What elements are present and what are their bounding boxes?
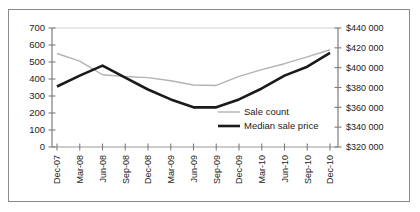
x-axis-tick-label: Sep-08 xyxy=(121,155,131,184)
x-axis-tick-label: Dec-08 xyxy=(143,155,153,184)
x-axis-tick-label: Mar-09 xyxy=(166,155,176,184)
left-axis-tick-label: 400 xyxy=(29,73,45,84)
left-axis-tick-labels: 0100200300400500600700 xyxy=(29,22,45,152)
right-axis-tick-label: $420 000 xyxy=(346,43,384,53)
left-axis-tick-label: 100 xyxy=(29,124,45,135)
right-axis-tick-label: $320 000 xyxy=(346,142,384,152)
right-axis-tick-label: $380 000 xyxy=(346,83,384,93)
series-line-median-sale-price xyxy=(57,53,330,108)
x-axis-tick-label: Mar-10 xyxy=(257,155,267,184)
x-axis-tick-label: Dec-10 xyxy=(325,155,335,184)
legend-label-sale-count: Sale count xyxy=(244,106,289,117)
right-axis-tick-label: $360 000 xyxy=(346,103,384,113)
right-axis-tick-label: $400 000 xyxy=(346,63,384,73)
left-axis-tick-label: 700 xyxy=(29,22,45,33)
x-axis-tick-label: Jun-08 xyxy=(98,155,108,183)
axis-lines xyxy=(49,28,342,151)
x-axis-tick-label: Dec-07 xyxy=(52,155,62,184)
x-axis-tick-label: Dec-09 xyxy=(234,155,244,184)
x-axis-tick-label: Mar-08 xyxy=(75,155,85,184)
left-axis-tick-label: 0 xyxy=(40,141,45,152)
x-axis-tick-labels: Dec-07Mar-08Jun-08Sep-08Dec-08Mar-09Jun-… xyxy=(52,155,335,184)
right-axis-tick-labels: $320 000$340 000$360 000$380 000$400 000… xyxy=(346,23,384,152)
right-axis-tick-label: $340 000 xyxy=(346,122,384,132)
x-axis-tick-label: Jun-09 xyxy=(189,155,199,183)
x-axis-tick-label: Sep-10 xyxy=(303,155,313,184)
x-axis-tick-label: Sep-09 xyxy=(212,155,222,184)
left-axis-tick-label: 300 xyxy=(29,90,45,101)
x-axis-tick-label: Jun-10 xyxy=(280,155,290,183)
left-axis-tick-label: 500 xyxy=(29,56,45,67)
right-axis-tick-label: $440 000 xyxy=(346,23,384,33)
left-axis-tick-label: 200 xyxy=(29,107,45,118)
legend-label-median-sale-price: Median sale price xyxy=(244,120,318,131)
left-axis-tick-label: 600 xyxy=(29,39,45,50)
chart-figure: 0100200300400500600700 $320 000$340 000$… xyxy=(0,0,420,212)
data-series-lines xyxy=(57,50,330,108)
chart-legend: Sale countMedian sale price xyxy=(218,106,318,131)
chart-svg: 0100200300400500600700 $320 000$340 000$… xyxy=(0,0,420,212)
plot-area: 0100200300400500600700 $320 000$340 000$… xyxy=(0,0,420,212)
